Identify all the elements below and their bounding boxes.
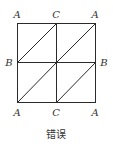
label-bottom-left: A [12,107,20,118]
label-mid-left: B [4,57,12,68]
label-top-right: A [90,9,98,20]
folding-diagram: A C A B B A C A 错误 [0,0,113,146]
figure-caption: 错误 [46,128,66,140]
diagonal-top-left-cell [18,24,57,63]
diagonal-bottom-right-cell [57,63,96,103]
diagonal-bottom-left-cell [18,63,57,103]
label-bottom-right: A [90,107,98,118]
label-mid-right: B [99,57,107,68]
label-top-left: A [12,9,20,20]
label-top-mid: C [52,9,60,20]
diagonal-top-right-cell [57,24,96,63]
label-bottom-mid: C [52,107,60,118]
